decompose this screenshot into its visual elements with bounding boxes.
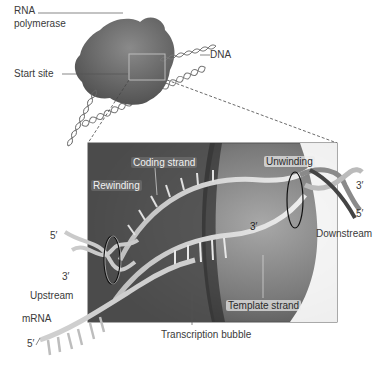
label-mrna: mRNA <box>22 313 51 324</box>
label-start-site: Start site <box>14 68 53 79</box>
label-downstream: Downstream <box>316 228 372 239</box>
label-left-5prime: 5′ <box>50 230 57 241</box>
diagram-graphics <box>0 0 392 365</box>
label-right-5prime: 5′ <box>356 208 363 219</box>
label-right-3prime: 3′ <box>356 180 363 191</box>
rna-polymerase-blob <box>75 17 175 104</box>
label-dna: DNA <box>210 49 231 60</box>
label-transcription-bubble: Transcription bubble <box>161 329 251 340</box>
label-rna-polymerase-1: RNA <box>14 5 35 16</box>
label-template-strand: Template strand <box>226 300 301 311</box>
label-rna-polymerase-2: polymerase <box>14 18 66 29</box>
label-3prime-center: 3′ <box>250 221 257 232</box>
label-left-3prime: 3′ <box>62 271 69 282</box>
label-rewinding: Rewinding <box>91 180 142 191</box>
label-coding-strand: Coding strand <box>131 157 197 168</box>
label-mrna-5prime: 5′ <box>27 338 34 349</box>
label-upstream: Upstream <box>30 290 73 301</box>
label-unwinding: Unwinding <box>264 156 315 167</box>
